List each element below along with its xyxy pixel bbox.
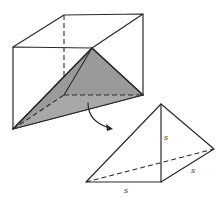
cube-top-face-edges [13,14,143,48]
cube-pyramid-diagram: s s s [0,0,223,200]
arrowhead-icon [106,124,113,131]
cube [13,14,143,129]
label-bottom-s: s [124,186,128,195]
label-slant-s: s [191,166,195,175]
pyramid: s s s [86,104,214,195]
label-vertical-s: s [164,133,168,142]
